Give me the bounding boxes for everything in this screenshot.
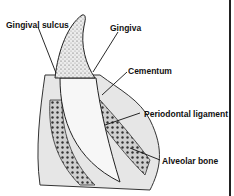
label-gingival-sulcus: Gingival sulcus	[6, 21, 69, 30]
label-cementum: Cementum	[128, 67, 172, 76]
label-periodontal-ligament: Periodontal ligament	[144, 110, 228, 119]
label-gingiva: Gingiva	[110, 24, 141, 33]
label-alveolar-bone: Alveolar bone	[162, 157, 218, 166]
